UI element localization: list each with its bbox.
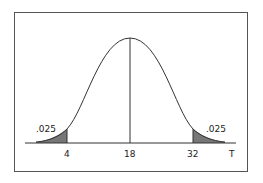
tick-label-32: 32 [187,149,198,159]
left-tail-area-label: .025 [36,124,56,134]
right-tail-area-label: .025 [206,124,226,134]
normal-distribution-chart: .025 .025 4 18 32 T [0,0,263,183]
tick-label-18: 18 [124,149,136,159]
tick-label-4: 4 [64,149,70,159]
x-axis-label: T [228,149,235,159]
